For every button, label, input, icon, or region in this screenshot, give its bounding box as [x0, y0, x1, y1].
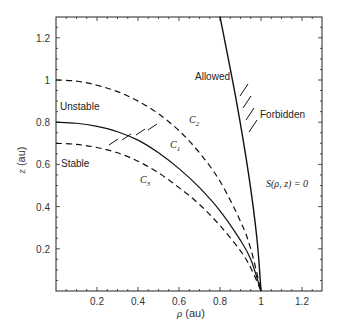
y-tick-label: 0.6: [36, 159, 50, 170]
y-tick-label: 1.2: [36, 33, 50, 44]
annotation-forbidden: Forbidden: [260, 109, 305, 120]
x-tick-label: 1: [258, 296, 264, 307]
annotation-unstable: Unstable: [60, 101, 100, 112]
label-c1: C1: [170, 139, 180, 153]
curves: [56, 17, 261, 291]
curve-sz0: [220, 17, 261, 291]
x-tick-label: 0.6: [172, 296, 186, 307]
y-tick-label: 0.2: [36, 244, 50, 255]
curve-c1: [56, 122, 261, 291]
x-axis-title: ρ (au): [176, 307, 205, 319]
y-tick-label: 0.4: [36, 202, 50, 213]
y-tick-label: 1: [44, 75, 50, 86]
x-tick-label: 1.2: [295, 296, 309, 307]
annotation-stable: Stable: [61, 158, 90, 169]
x-tick-label: 0.8: [213, 296, 227, 307]
x-tick-label: 0.4: [131, 296, 145, 307]
y-axis-title: z (au): [15, 147, 27, 175]
label-c3: C3: [140, 174, 151, 188]
equation-s: S(ρ, z) = 0: [266, 178, 308, 190]
label-c2: C2: [189, 114, 200, 128]
y-tick-label: 0.8: [36, 117, 50, 128]
plot-frame: [56, 17, 322, 291]
x-tick-label: 0.2: [90, 296, 104, 307]
annotation-allowed: Allowed: [195, 71, 230, 82]
chart: 0.20.40.60.811.20.20.40.60.811.2 Unstabl…: [0, 0, 337, 329]
